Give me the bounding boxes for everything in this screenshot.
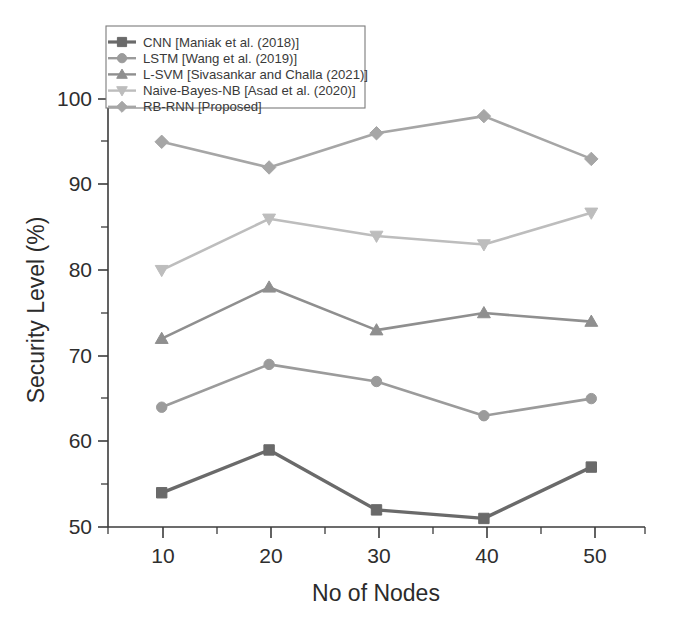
line-chart-canvas: 100 90 80 70 60 50 10 20 30 40 50 — [0, 0, 676, 621]
y-axis-title: Security Level (%) — [23, 217, 49, 404]
y-tick-label-50: 50 — [69, 515, 92, 538]
legend: CNN [Maniak et al. (2018)]LSTM [Wang et … — [106, 26, 368, 114]
x-tick-label-20: 20 — [259, 544, 282, 567]
data-point-marker — [370, 127, 383, 140]
series-1 — [157, 445, 597, 524]
series-3 — [155, 281, 597, 344]
data-point-marker — [263, 281, 276, 292]
legend-label: LSTM [Wang et al. (2019)] — [143, 51, 297, 66]
series-layer — [155, 109, 598, 523]
data-point-marker — [585, 152, 598, 165]
y-tick-label-60: 60 — [69, 429, 92, 452]
data-point-marker — [477, 109, 490, 122]
series-line — [162, 364, 592, 415]
legend-marker-icon — [117, 54, 126, 63]
y-tick-label-80: 80 — [69, 258, 92, 281]
x-tick-label-40: 40 — [475, 544, 498, 567]
legend-entry-4[interactable]: Naive-Bayes-NB [Asad et al. (2020)] — [108, 83, 356, 98]
legend-label: L-SVM [Sivasankar and Challa (2021)] — [143, 67, 368, 82]
legend-label: Naive-Bayes-NB [Asad et al. (2020)] — [143, 83, 356, 98]
data-point-marker — [586, 393, 596, 403]
y-tick-label-90: 90 — [69, 172, 92, 195]
x-axis-title: No of Nodes — [312, 580, 440, 606]
series-line — [162, 116, 592, 167]
series-5 — [155, 109, 598, 174]
data-point-marker — [157, 402, 167, 412]
x-tick-labels: 10 20 30 40 50 — [151, 544, 606, 567]
data-point-marker — [371, 505, 381, 515]
data-point-marker — [155, 135, 168, 148]
data-point-marker — [479, 411, 489, 421]
data-point-marker — [262, 161, 275, 174]
x-tick-label-10: 10 — [151, 544, 174, 567]
series-4 — [155, 208, 597, 277]
legend-marker-icon — [117, 37, 126, 46]
x-ticks-group — [108, 527, 645, 538]
data-point-marker — [264, 445, 274, 455]
legend-label: CNN [Maniak et al. (2018)] — [143, 35, 299, 50]
y-tick-labels: 100 90 80 70 60 50 — [57, 87, 92, 538]
data-point-marker — [157, 488, 167, 498]
axis-group — [108, 92, 645, 527]
legend-entry-3[interactable]: L-SVM [Sivasankar and Challa (2021)] — [108, 67, 368, 82]
chart-figure: 100 90 80 70 60 50 10 20 30 40 50 — [0, 0, 676, 621]
series-2 — [157, 359, 597, 421]
y-ticks-group — [98, 99, 108, 527]
y-tick-label-70: 70 — [69, 344, 92, 367]
x-tick-label-50: 50 — [583, 544, 606, 567]
data-point-marker — [264, 359, 274, 369]
data-point-marker — [479, 513, 489, 523]
data-point-marker — [155, 265, 168, 276]
legend-label: RB-RNN [Proposed] — [143, 99, 262, 114]
data-point-marker — [371, 376, 381, 386]
y-tick-label-100: 100 — [57, 87, 92, 110]
x-tick-label-30: 30 — [367, 544, 390, 567]
data-point-marker — [586, 462, 596, 472]
